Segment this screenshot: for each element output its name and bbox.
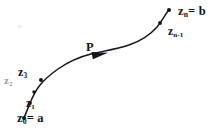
contour-curve — [30, 11, 168, 103]
label-znm1-subscript: n-1 — [173, 31, 183, 39]
dot-z3 — [39, 78, 43, 82]
dot-zn-1 — [158, 21, 162, 25]
label-z1: z1 — [26, 98, 35, 111]
label-z2: z2 — [4, 75, 13, 87]
label-z0-equals-a: z0= a — [17, 112, 44, 125]
partition-point-dots — [22, 8, 171, 120]
label-z3-subscript: 3 — [24, 71, 28, 80]
label-z1-subscript: 1 — [31, 103, 35, 111]
label-zn-value: = b — [188, 4, 206, 18]
scan-speck — [18, 25, 21, 28]
dot-z2 — [32, 90, 35, 93]
label-zn-minus-1: zn-1 — [168, 26, 183, 39]
contour-path-figure: zn= b zn-1 P z3 z2 z1 z0= a — [0, 0, 216, 130]
label-z2-subscript: 2 — [9, 80, 12, 87]
label-z0-value: = a — [27, 111, 44, 125]
label-curve-p: P — [86, 41, 94, 54]
dot-zn — [167, 8, 171, 12]
label-zn-equals-b: zn= b — [178, 5, 206, 18]
label-z3: z3 — [18, 66, 27, 79]
